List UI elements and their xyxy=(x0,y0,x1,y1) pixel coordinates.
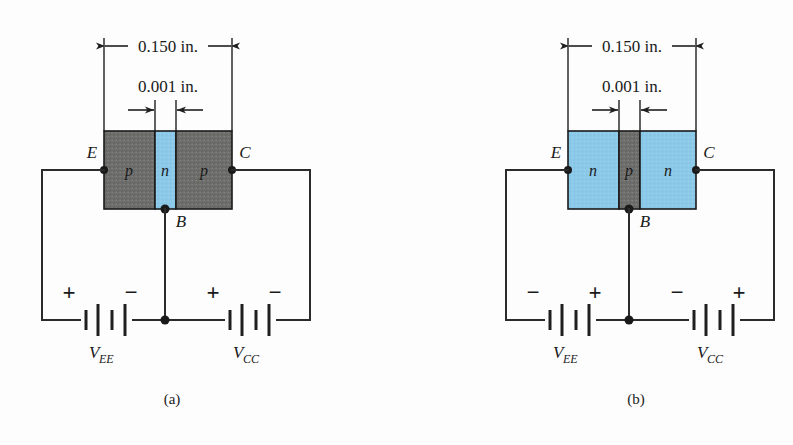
source-vcc-b-subscript: CC xyxy=(707,352,724,366)
dimension-base-a-label: 0.001 in. xyxy=(138,77,198,96)
source-vee-b-subscript: EE xyxy=(562,352,578,366)
source-vee-b-right-sign: + xyxy=(588,280,601,305)
transistor-body-b: n p n xyxy=(568,131,696,209)
region-emitter-b-label: n xyxy=(589,162,597,179)
junction-node-a xyxy=(161,316,170,325)
source-vcc-a-left-sign: + xyxy=(206,280,219,305)
source-vee-b-left-sign: − xyxy=(526,280,539,305)
figure-canvas: 0.150 in. 0.001 in. p n p E C B xyxy=(0,0,793,445)
dimension-overall-a-label: 0.150 in. xyxy=(138,37,198,56)
figure-background xyxy=(0,0,793,445)
source-vcc-b-left-sign: − xyxy=(670,280,683,305)
terminal-emitter-b-label: E xyxy=(550,143,562,162)
source-vee-a-left-sign: + xyxy=(62,280,75,305)
dimension-overall-b-label: 0.150 in. xyxy=(602,37,662,56)
terminal-base-a-label: B xyxy=(176,212,187,231)
caption-a: (a) xyxy=(164,391,181,408)
junction-node-b xyxy=(625,316,634,325)
region-emitter-a-label: p xyxy=(124,162,133,180)
caption-b: (b) xyxy=(627,391,645,408)
transistor-bias-figure: 0.150 in. 0.001 in. p n p E C B xyxy=(0,0,793,445)
region-collector-b-label: n xyxy=(664,162,672,179)
region-base-a-label: n xyxy=(161,162,169,179)
region-collector-a-label: p xyxy=(199,162,208,180)
terminal-collector-a-label: C xyxy=(239,143,251,162)
terminal-collector-b-label: C xyxy=(703,143,715,162)
dimension-base-b-label: 0.001 in. xyxy=(602,77,662,96)
source-vee-a-subscript: EE xyxy=(98,352,114,366)
terminal-emitter-a-label: E xyxy=(86,143,98,162)
transistor-body-a: p n p xyxy=(104,131,232,209)
source-vcc-a-right-sign: − xyxy=(268,280,281,305)
source-vcc-a-subscript: CC xyxy=(243,352,260,366)
source-vee-a-right-sign: − xyxy=(124,280,137,305)
source-vcc-b-right-sign: + xyxy=(732,280,745,305)
region-base-b-label: p xyxy=(624,162,633,180)
terminal-base-b-label: B xyxy=(640,212,651,231)
